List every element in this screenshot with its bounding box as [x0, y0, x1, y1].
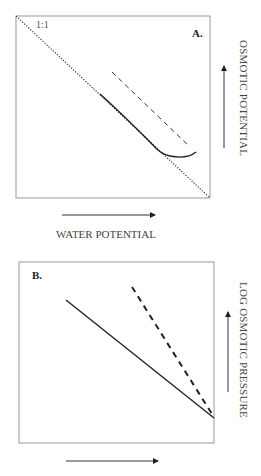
panel-b-solid-line	[66, 300, 214, 418]
x-axis-label-a: WATER POTENTIAL	[56, 228, 156, 240]
panel-a-tag: A.	[192, 27, 203, 39]
panel-a-plot	[16, 16, 224, 215]
y-axis-label-a: OSMOTIC POTENTIAL	[238, 40, 250, 156]
panel-b-plot	[19, 262, 228, 461]
panel-b-dashed-line	[132, 287, 212, 414]
panel-b-tag: B.	[32, 269, 42, 281]
panel-b-frame	[19, 262, 214, 443]
one-to-one-label: 1:1	[36, 19, 49, 30]
y-axis-label-b: LOG OSMOTIC PRESSURE	[238, 282, 250, 418]
panel-a-dashed-line	[112, 72, 190, 147]
panel-a-solid-curve	[100, 94, 196, 157]
one-to-one-line	[16, 16, 210, 198]
